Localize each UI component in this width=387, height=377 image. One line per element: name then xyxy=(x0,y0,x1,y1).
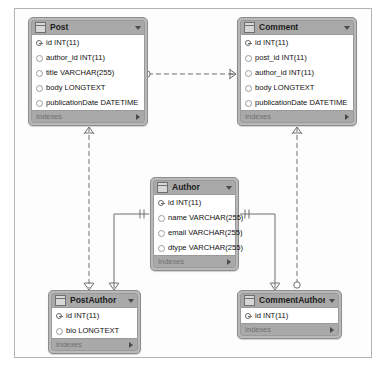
table-node-postauthor[interactable]: PostAuthorid INT(11)bio LONGTEXTIndexes xyxy=(48,290,141,354)
column-label: id INT(11) xyxy=(255,311,288,320)
chevron-down-icon[interactable] xyxy=(226,186,232,190)
column-label: bio LONGTEXT xyxy=(66,326,119,335)
table-node-author[interactable]: Authorid INT(11)name VARCHAR(255)email V… xyxy=(150,177,239,271)
column-label: email VARCHAR(255) xyxy=(168,228,243,237)
primary-key-icon xyxy=(244,39,252,47)
table-icon xyxy=(35,22,46,33)
column-list: id INT(11)author_id INT(11)title VARCHAR… xyxy=(31,35,145,110)
column-label: publicationDate DATETIME xyxy=(46,98,138,107)
column-list: id INT(11)post_id INT(11)author_id INT(1… xyxy=(240,35,354,110)
column-list: id INT(11)bio LONGTEXT xyxy=(51,308,138,338)
column-bullet-icon xyxy=(35,69,43,77)
indexes-label: Indexes xyxy=(56,340,129,349)
column-label: body LONGTEXT xyxy=(255,83,315,92)
column-bullet-icon xyxy=(244,69,252,77)
chevron-right-icon[interactable] xyxy=(345,114,349,120)
column-row[interactable]: email VARCHAR(255) xyxy=(154,225,235,240)
table-node-post[interactable]: Postid INT(11)author_id INT(11)title VAR… xyxy=(28,17,148,126)
column-row[interactable]: title VARCHAR(255) xyxy=(32,65,144,80)
chevron-down-icon[interactable] xyxy=(128,299,134,303)
table-title: Post xyxy=(50,22,131,33)
column-label: title VARCHAR(255) xyxy=(46,68,114,77)
column-label: publicationDate DATETIME xyxy=(255,98,347,107)
table-icon xyxy=(55,295,66,306)
column-row[interactable]: bio LONGTEXT xyxy=(52,323,137,338)
table-node-commentauthor[interactable]: CommentAuthorid INT(11)Indexes xyxy=(237,290,342,339)
column-row[interactable]: dtype VARCHAR(255) xyxy=(154,240,235,255)
indexes-label: Indexes xyxy=(245,325,330,334)
indexes-section[interactable]: Indexes xyxy=(153,255,236,268)
column-label: id INT(11) xyxy=(66,311,99,320)
edge-comment-commentauthor xyxy=(292,127,302,288)
column-row[interactable]: id INT(11) xyxy=(154,195,235,210)
table-icon xyxy=(157,182,168,193)
indexes-label: Indexes xyxy=(158,257,227,266)
edge-post-comment xyxy=(142,69,236,79)
column-bullet-icon xyxy=(157,214,165,222)
indexes-section[interactable]: Indexes xyxy=(240,110,354,123)
table-title: CommentAuthor xyxy=(259,295,325,306)
primary-key-icon xyxy=(244,312,252,320)
column-label: author_id INT(11) xyxy=(255,68,314,77)
table-icon xyxy=(244,22,255,33)
table-header[interactable]: PostAuthor xyxy=(51,293,138,308)
column-bullet-icon xyxy=(244,54,252,62)
column-row[interactable]: id INT(11) xyxy=(241,308,338,323)
column-label: id INT(11) xyxy=(46,38,79,47)
chevron-right-icon[interactable] xyxy=(136,114,140,120)
column-label: id INT(11) xyxy=(168,198,201,207)
column-label: author_id INT(11) xyxy=(46,53,105,62)
column-row[interactable]: publicationDate DATETIME xyxy=(32,95,144,110)
chevron-down-icon[interactable] xyxy=(344,26,350,30)
column-bullet-icon xyxy=(35,84,43,92)
diagram-canvas[interactable]: Postid INT(11)author_id INT(11)title VAR… xyxy=(0,0,387,377)
primary-key-icon xyxy=(35,39,43,47)
column-row[interactable]: body LONGTEXT xyxy=(32,80,144,95)
edge-post-postauthor xyxy=(84,127,94,290)
column-row[interactable]: author_id INT(11) xyxy=(32,50,144,65)
column-label: id INT(11) xyxy=(255,38,288,47)
chevron-down-icon[interactable] xyxy=(329,299,335,303)
column-row[interactable]: id INT(11) xyxy=(52,308,137,323)
column-row[interactable]: body LONGTEXT xyxy=(241,80,353,95)
table-header[interactable]: Author xyxy=(153,180,236,195)
table-node-comment[interactable]: Commentid INT(11)post_id INT(11)author_i… xyxy=(237,17,357,126)
column-bullet-icon xyxy=(35,99,43,107)
column-bullet-icon xyxy=(244,84,252,92)
column-label: post_id INT(11) xyxy=(255,53,307,62)
column-row[interactable]: author_id INT(11) xyxy=(241,65,353,80)
edge-author-postauthor xyxy=(109,210,149,291)
column-row[interactable]: name VARCHAR(255) xyxy=(154,210,235,225)
column-bullet-icon xyxy=(35,54,43,62)
column-row[interactable]: id INT(11) xyxy=(241,35,353,50)
column-bullet-icon xyxy=(157,244,165,252)
column-bullet-icon xyxy=(157,229,165,237)
primary-key-icon xyxy=(55,312,63,320)
column-row[interactable]: publicationDate DATETIME xyxy=(241,95,353,110)
chevron-down-icon[interactable] xyxy=(135,26,141,30)
column-row[interactable]: post_id INT(11) xyxy=(241,50,353,65)
indexes-section[interactable]: Indexes xyxy=(31,110,145,123)
table-header[interactable]: CommentAuthor xyxy=(240,293,339,308)
column-list: id INT(11)name VARCHAR(255)email VARCHAR… xyxy=(153,195,236,255)
table-title: PostAuthor xyxy=(70,295,124,306)
chevron-right-icon[interactable] xyxy=(129,342,133,348)
indexes-label: Indexes xyxy=(36,112,136,121)
table-header[interactable]: Post xyxy=(31,20,145,35)
column-label: name VARCHAR(255) xyxy=(168,213,243,222)
column-list: id INT(11) xyxy=(240,308,339,323)
edge-author-commentauthor xyxy=(240,210,280,291)
indexes-section[interactable]: Indexes xyxy=(51,338,138,351)
chevron-right-icon[interactable] xyxy=(330,327,334,333)
column-bullet-icon xyxy=(244,99,252,107)
primary-key-icon xyxy=(157,199,165,207)
table-title: Author xyxy=(172,182,222,193)
table-title: Comment xyxy=(259,22,340,33)
column-label: dtype VARCHAR(255) xyxy=(168,243,243,252)
table-header[interactable]: Comment xyxy=(240,20,354,35)
column-row[interactable]: id INT(11) xyxy=(32,35,144,50)
column-bullet-icon xyxy=(55,327,63,335)
table-icon xyxy=(244,295,255,306)
chevron-right-icon[interactable] xyxy=(227,259,231,265)
indexes-section[interactable]: Indexes xyxy=(240,323,339,336)
